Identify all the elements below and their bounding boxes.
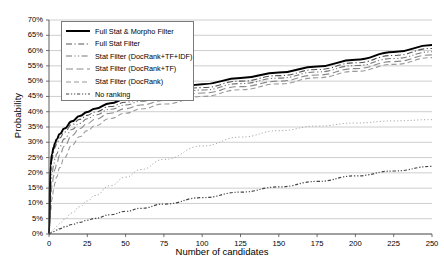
legend-line-sample xyxy=(65,51,91,61)
y-tick-label: 5% xyxy=(17,214,43,223)
legend-item: No ranking xyxy=(65,88,190,101)
probability-vs-candidates-chart: 0%5%10%15%20%25%30%35%40%45%50%55%60%65%… xyxy=(0,0,444,268)
legend-item: Full Stat Filter xyxy=(65,38,190,51)
legend-item-label: Full Stat & Morpho Filter xyxy=(95,28,174,35)
y-axis-title: Probability xyxy=(12,71,23,161)
legend-item-label: Stat Filter (DocRank+TF) xyxy=(95,65,176,72)
legend-item-label: Stat Filter (DocRank) xyxy=(95,78,163,85)
legend-item: Stat Filter (DocRank) xyxy=(65,75,190,88)
series-line xyxy=(49,120,432,234)
x-axis-title: Number of candidates xyxy=(0,246,444,257)
chart-legend: Full Stat & Morpho FilterFull Stat Filte… xyxy=(61,21,194,101)
y-tick-label: 65% xyxy=(17,30,43,39)
legend-item-label: Stat Filter (DocRank+TF+IDF) xyxy=(95,53,192,60)
legend-item-label: No ranking xyxy=(95,91,130,98)
y-tick-label: 20% xyxy=(17,168,43,177)
y-tick-label: 60% xyxy=(17,46,43,55)
series-line xyxy=(49,166,432,234)
legend-item: Full Stat & Morpho Filter xyxy=(65,25,190,38)
y-tick-label: 55% xyxy=(17,61,43,70)
legend-item: Stat Filter (DocRank+TF+IDF) xyxy=(65,50,190,63)
legend-line-sample xyxy=(65,89,91,99)
legend-item-label: Full Stat Filter xyxy=(95,40,140,47)
y-tick-label: 0% xyxy=(17,229,43,238)
y-tick-label: 70% xyxy=(17,15,43,24)
legend-line-sample xyxy=(65,26,91,36)
legend-line-sample xyxy=(65,77,91,87)
legend-line-sample xyxy=(65,64,91,74)
legend-line-sample xyxy=(65,39,91,49)
legend-item: Stat Filter (DocRank+TF) xyxy=(65,63,190,76)
y-tick-label: 10% xyxy=(17,198,43,207)
y-tick-label: 15% xyxy=(17,183,43,192)
